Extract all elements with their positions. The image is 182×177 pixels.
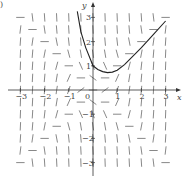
slope-segment [20, 134, 21, 142]
slope-segment [141, 50, 143, 58]
x-tick-label: −2 [40, 92, 52, 101]
slope-segment [68, 122, 70, 130]
x-axis-label: x [177, 93, 182, 102]
slope-segment [44, 25, 45, 33]
slope-segment [56, 110, 58, 118]
x-tick-label: 2 [139, 92, 144, 101]
y-tick-label: −3 [82, 159, 94, 168]
slope-segment [56, 74, 57, 82]
slope-segment [141, 74, 142, 82]
slope-segment [32, 110, 33, 118]
slope-segment [56, 98, 57, 106]
y-tick-label: 3 [86, 13, 91, 22]
slope-segment [141, 122, 143, 130]
slope-segment [153, 110, 154, 118]
slope-segment [32, 13, 33, 21]
slope-segment [32, 158, 33, 166]
slope-segment [141, 13, 142, 21]
slope-segment [129, 98, 130, 106]
y-tick-label: 1 [86, 62, 91, 71]
slope-segment [56, 37, 58, 45]
slope-segment [165, 25, 166, 33]
slope-segment [117, 25, 118, 33]
slope-segment [32, 37, 33, 45]
slope-segment [117, 134, 118, 142]
slope-segment [129, 134, 131, 142]
slope-segment [128, 62, 130, 70]
slope-segment [32, 134, 33, 142]
slope-segment [44, 110, 45, 118]
slope-segment [68, 37, 69, 45]
slope-segment [56, 62, 58, 70]
slope-segment [44, 74, 45, 82]
slope-segment [153, 37, 154, 45]
slope-segment [20, 146, 21, 154]
slope-segment [105, 37, 106, 45]
slope-segment [153, 62, 154, 70]
x-axis-arrow-icon [176, 88, 181, 92]
y-axis-label: y [81, 1, 87, 10]
slope-segment [81, 37, 82, 45]
slope-segment [32, 62, 33, 70]
slope-segment [165, 146, 166, 154]
slope-segment [44, 158, 45, 166]
slope-segment [67, 74, 70, 82]
slope-segment [105, 134, 106, 142]
slope-segment [20, 25, 21, 33]
slope-segment [141, 25, 142, 33]
slope-segment [115, 74, 118, 82]
y-tick-label: −2 [82, 134, 94, 143]
slope-segment [32, 50, 33, 58]
slope-segment [129, 25, 130, 33]
slope-segment [141, 110, 142, 118]
slope-segment [20, 37, 21, 45]
y-tick-label: 2 [86, 38, 91, 47]
slope-segment [80, 122, 81, 130]
slope-segment [153, 134, 154, 142]
slope-segment [141, 62, 142, 70]
slope-segment [44, 146, 45, 154]
slope-segment [117, 37, 118, 45]
slope-segment [165, 37, 166, 45]
x-tick-label: 0 [85, 92, 90, 101]
slope-segment [44, 122, 46, 130]
slope-segment [44, 13, 45, 21]
slope-segment [56, 146, 57, 154]
slope-segment [44, 62, 45, 70]
slope-segment [69, 25, 70, 33]
slope-segment [129, 74, 130, 82]
x-tick-label: 1 [115, 92, 120, 101]
y-axis-arrow-icon [91, 2, 95, 7]
slope-segment [129, 146, 130, 154]
slope-segment [69, 146, 70, 154]
slope-segment [79, 62, 82, 70]
slope-segment [103, 62, 106, 70]
slope-segment [56, 134, 58, 142]
slope-segment [68, 134, 69, 142]
slope-segment [153, 158, 154, 166]
slope-segment [141, 146, 142, 154]
panel-label: ) [0, 0, 3, 9]
slope-segment [165, 134, 166, 142]
slope-segment [116, 50, 118, 58]
slope-segment [103, 110, 106, 118]
slope-segment [117, 146, 118, 154]
slope-segment [129, 37, 131, 45]
slope-segment [32, 122, 33, 130]
slope-segment [80, 50, 81, 58]
slope-segment [104, 50, 105, 58]
slope-segment [153, 122, 154, 130]
slope-segment [56, 25, 57, 33]
slope-field-chart: −3−2−10123321−1−2−3 x y ) [0, 0, 182, 177]
x-tick-label: −3 [15, 92, 27, 101]
slope-segment [128, 110, 130, 118]
x-tick-label: 3 [164, 92, 169, 101]
axis-ticks: −3−2−10123321−1−2−3 [15, 13, 168, 167]
x-tick-label: −1 [64, 92, 76, 101]
slope-segment [116, 122, 118, 130]
slope-segment [153, 50, 154, 58]
slope-segment [68, 50, 70, 58]
slope-segment [153, 13, 154, 21]
slope-segment [44, 50, 46, 58]
y-tick-label: −1 [82, 110, 94, 119]
